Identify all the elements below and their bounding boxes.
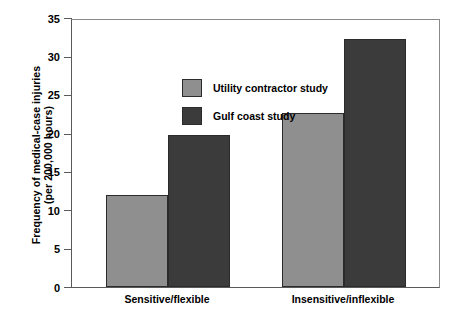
legend-label-gulf-coast-study: Gulf coast study [213, 110, 295, 122]
y-axis-tick-label-15: 15 [14, 167, 60, 178]
legend-label-utility-contractor-study: Utility contractor study [213, 82, 328, 94]
legend-swatch-gulf-coast-study [182, 107, 202, 125]
bar-chart: Frequency of medical-case injuries (per … [0, 0, 458, 319]
bar-insensitive-inflexible-gulf-coast-study [344, 39, 406, 287]
bar-sensitive-flexible-gulf-coast-study [168, 135, 230, 287]
legend-item-utility-contractor-study: Utility contractor study [182, 79, 328, 97]
legend-item-gulf-coast-study: Gulf coast study [182, 107, 328, 125]
y-axis-tick-label-30: 30 [14, 52, 60, 63]
x-axis-label-sensitive-flexible: Sensitive/flexible [77, 293, 257, 305]
y-axis-title-line-2: (per 200,000 hours) [42, 106, 54, 204]
plot-area: Utility contractor study Gulf coast stud… [71, 19, 440, 288]
y-axis-tick-label-0: 0 [14, 283, 60, 294]
y-axis-tick-label-25: 25 [14, 90, 60, 101]
y-axis-tick-label-35: 35 [14, 14, 60, 25]
legend: Utility contractor study Gulf coast stud… [182, 79, 328, 135]
legend-swatch-utility-contractor-study [182, 79, 202, 97]
bar-insensitive-inflexible-utility-contractor-study [282, 113, 344, 287]
bar-sensitive-flexible-utility-contractor-study [106, 195, 168, 287]
y-axis-tick-label-20: 20 [14, 129, 60, 140]
y-axis-tick-label-5: 5 [14, 244, 60, 255]
x-axis-label-insensitive-inflexible: Insensitive/inflexible [253, 293, 433, 305]
y-axis-tick-label-10: 10 [14, 206, 60, 217]
